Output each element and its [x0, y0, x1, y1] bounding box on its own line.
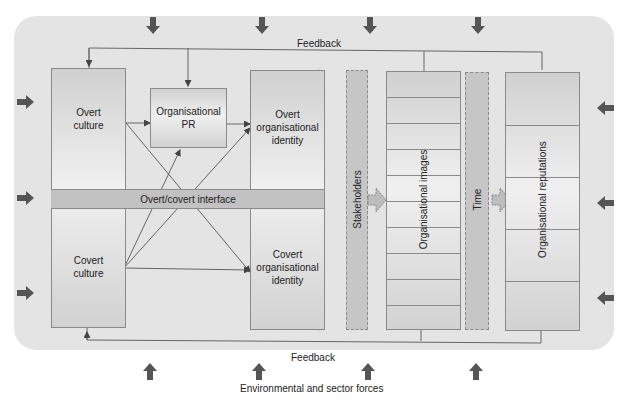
organisational-images-label: Organisational images: [418, 140, 429, 260]
stakeholders-label: Stakeholders: [352, 160, 363, 240]
organisational-reputations-label: Organisational reputations: [537, 135, 548, 265]
feedback-top-label: Feedback: [297, 38, 341, 49]
environmental-forces-caption: Environmental and sector forces: [240, 383, 383, 394]
feedback-bottom-label: Feedback: [291, 352, 335, 363]
time-label: Time: [472, 180, 483, 220]
